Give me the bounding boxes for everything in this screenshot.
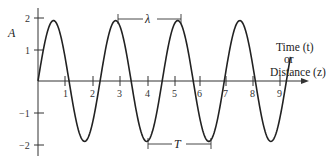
x-tick-label: 6 xyxy=(197,88,202,99)
wavelength-label: λ xyxy=(144,12,150,26)
x-axis-arrow-icon xyxy=(301,78,309,84)
y-tick-label: −2 xyxy=(19,140,30,151)
period-label: T xyxy=(174,137,182,151)
x-tick-label: 3 xyxy=(117,88,122,99)
x-tick-label: 7 xyxy=(223,88,228,99)
y-tick-label: 1 xyxy=(25,45,30,56)
wave-chart: 2 1 −1 −2 A 1 2 3 4 5 6 7 8 9 Time (t) o… xyxy=(0,0,334,168)
x-tick-label: 1 xyxy=(63,88,68,99)
x-tick-label: 5 xyxy=(172,88,177,99)
y-axis-title: A xyxy=(7,26,16,40)
x-axis-title-line3: Distance (z) xyxy=(270,66,326,79)
x-tick-label: 4 xyxy=(145,88,150,99)
x-tick-label: 2 xyxy=(90,88,95,99)
x-tick-label: 9 xyxy=(277,88,282,99)
x-axis-title-line1: Time (t) xyxy=(276,41,314,54)
x-tick-label: 8 xyxy=(250,88,255,99)
y-tick-label: 2 xyxy=(25,13,30,24)
y-tick-label: −1 xyxy=(19,108,30,119)
